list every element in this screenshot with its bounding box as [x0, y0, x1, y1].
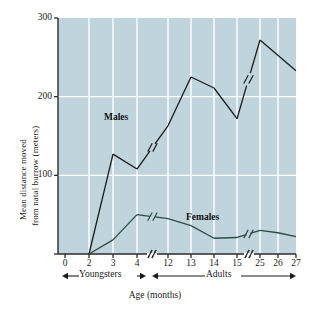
x-tick-label: 0	[57, 258, 73, 268]
x-tick-label: 12	[160, 258, 176, 268]
x-tick-label: 27	[288, 258, 304, 268]
y-tick-label: 300	[26, 12, 52, 22]
x-tick-label: 26	[270, 258, 286, 268]
axis-break-gap	[244, 253, 254, 256]
axis-break-gap	[147, 253, 157, 256]
chart-figure: Mean distance moved from natal burrow (m…	[0, 0, 310, 311]
series-label-females: Females	[186, 212, 219, 222]
adults-bracket-label: Adults	[206, 269, 231, 279]
x-axis-label: Age (months)	[129, 290, 182, 300]
y-tick-label: 200	[26, 91, 52, 101]
x-tick-label: 2	[81, 258, 97, 268]
x-tick-label: 4	[129, 258, 145, 268]
x-tick-label: 13	[183, 258, 199, 268]
females-line-segment	[214, 237, 237, 238]
y-axis-label-line1: Mean distance moved	[18, 139, 28, 220]
x-tick-label: 25	[252, 258, 268, 268]
x-tick-label: 15	[229, 258, 245, 268]
series-label-males: Males	[104, 112, 128, 122]
x-tick-label: 3	[105, 258, 121, 268]
y-tick-label: 100	[26, 169, 52, 179]
x-tick-label: 14	[206, 258, 222, 268]
youngsters-bracket-label: Youngsters	[79, 269, 121, 279]
